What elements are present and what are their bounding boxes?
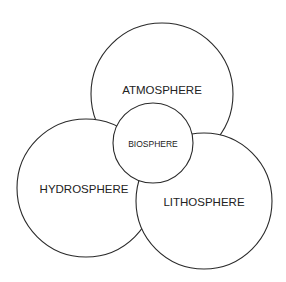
hydrosphere-label: HYDROSPHERE [40,183,129,195]
lithosphere-label: LITHOSPHERE [163,196,244,208]
atmosphere-label: ATMOSPHERE [122,84,202,96]
spheres-diagram: ATMOSPHERE HYDROSPHERE LITHOSPHERE BIOSP… [0,0,286,282]
biosphere-label: BIOSPHERE [128,139,178,149]
biosphere-sphere: BIOSPHERE [113,103,193,183]
